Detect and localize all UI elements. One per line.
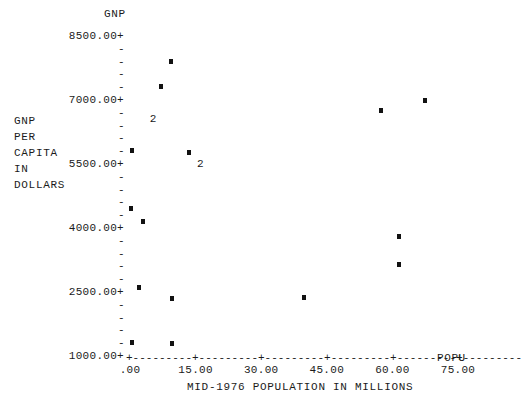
y-axis-minor-tick: - (118, 196, 125, 208)
data-point-marker (129, 206, 133, 211)
x-axis-tick-label: 75.00 (425, 364, 491, 376)
y-axis-minor-tick: - (118, 312, 125, 324)
data-point-marker (187, 150, 191, 155)
data-point-marker (397, 262, 401, 267)
x-axis-tick-label: 15.00 (163, 364, 229, 376)
data-point-overlap-marker: 2 (197, 158, 204, 170)
y-axis-tick-label: 7000.00+ (58, 94, 124, 106)
x-axis-tick-label: 30.00 (228, 364, 294, 376)
y-axis-variable-name: GNP (104, 8, 126, 20)
y-axis-caption-line: DOLLARS (14, 179, 65, 191)
data-point-marker (170, 296, 174, 301)
y-axis-tick-label: 8500.00+ (58, 30, 124, 42)
y-axis-minor-tick: - (118, 337, 125, 349)
data-point-marker (137, 285, 141, 290)
y-axis-minor-tick: - (118, 299, 125, 311)
y-axis-minor-tick: - (118, 132, 125, 144)
y-axis-tick-label: 4000.00+ (58, 222, 124, 234)
y-axis-caption-line: PER (14, 131, 36, 143)
x-axis-variable-name: POPU (437, 352, 466, 364)
data-point-marker (423, 98, 427, 103)
y-axis-minor-tick: - (118, 324, 125, 336)
x-axis-tick-label: 45.00 (294, 364, 360, 376)
y-axis-minor-tick: - (118, 171, 125, 183)
x-axis-caption: MID-1976 POPULATION IN MILLIONS (187, 381, 413, 393)
data-point-marker (170, 341, 174, 346)
y-axis-minor-tick: - (118, 260, 125, 272)
x-axis-tick-label: 60.00 (359, 364, 425, 376)
y-axis-caption-line: CAPITA (14, 147, 58, 159)
data-point-marker (397, 234, 401, 239)
y-axis-minor-tick: - (118, 235, 125, 247)
data-point-marker (379, 108, 383, 113)
y-axis-minor-tick: - (118, 56, 125, 68)
data-point-marker (130, 340, 134, 345)
y-axis-minor-tick: - (118, 145, 125, 157)
y-axis-minor-tick: - (118, 81, 125, 93)
y-axis-minor-tick: - (118, 120, 125, 132)
x-axis-tick-label: .00 (97, 364, 163, 376)
y-axis-minor-tick: - (118, 273, 125, 285)
y-axis-caption-line: IN (14, 163, 29, 175)
y-axis-tick-label: 1000.00+ (58, 350, 124, 362)
y-axis-minor-tick: - (118, 107, 125, 119)
data-point-marker (169, 59, 173, 64)
data-point-marker (130, 148, 134, 153)
data-point-marker (159, 84, 163, 89)
data-point-overlap-marker: 2 (150, 113, 157, 125)
y-axis-minor-tick: - (118, 209, 125, 221)
y-axis-caption-line: GNP (14, 115, 36, 127)
y-axis-tick-label: 2500.00+ (58, 286, 124, 298)
y-axis-tick-label: 5500.00+ (58, 158, 124, 170)
data-point-marker (141, 219, 145, 224)
y-axis-minor-tick: - (118, 68, 125, 80)
y-axis-minor-tick: - (118, 43, 125, 55)
data-point-marker (302, 295, 306, 300)
y-axis-minor-tick: - (118, 184, 125, 196)
y-axis-minor-tick: - (118, 248, 125, 260)
